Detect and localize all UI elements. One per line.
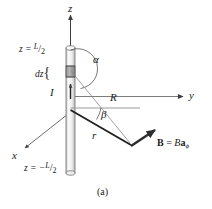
- z-bottom-denominator: 2: [53, 166, 57, 175]
- z-top-fraction: L/2: [34, 44, 45, 55]
- dz-label: dz{: [35, 66, 50, 80]
- z-top-numerator: L: [34, 42, 38, 51]
- z-top-label: z = L/2: [19, 44, 45, 55]
- r-label: r: [92, 130, 96, 141]
- B-equals: =: [164, 137, 175, 148]
- z-bottom-label: z = −L/2: [24, 163, 57, 174]
- figure-caption: (a): [97, 187, 108, 197]
- figure-container: z y x z = L/2 z = −L/2 dz{ I α β R r B =…: [0, 0, 212, 209]
- dz-brace: {: [43, 65, 50, 80]
- x-axis-label: x: [12, 150, 17, 161]
- B-bold-symbol: B: [157, 137, 164, 148]
- z-bottom-numerator: L: [45, 161, 49, 170]
- x-axis: [25, 112, 71, 148]
- B-field-vector-arrow: [131, 130, 155, 146]
- alpha-label: α: [93, 54, 99, 65]
- diagram-canvas: [0, 0, 212, 209]
- z-top-prefix: z =: [19, 44, 34, 54]
- beta-label: β: [101, 109, 106, 120]
- source-to-field-line: [71, 71, 130, 143]
- differential-element-dz: [66, 66, 75, 77]
- B-unit-subscript: ϕ: [185, 142, 189, 150]
- y-axis-label: y: [189, 90, 194, 101]
- z-bottom-fraction: L/2: [45, 163, 56, 174]
- R-label: R: [110, 92, 117, 103]
- B-field-label: B = Baϕ: [157, 138, 189, 150]
- z-bottom-prefix: z = −: [24, 163, 45, 173]
- current-label: I: [50, 87, 54, 98]
- z-top-denominator: 2: [41, 47, 45, 56]
- z-axis-label: z: [68, 3, 72, 14]
